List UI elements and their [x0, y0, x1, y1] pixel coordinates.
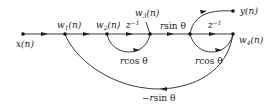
label-w2: w2(n) — [96, 20, 121, 31]
edge-w4-m-rcos — [190, 34, 233, 52]
node-w3 — [148, 32, 152, 36]
arrow-icon — [83, 32, 90, 36]
node-y — [231, 9, 235, 13]
arrow-icon — [167, 32, 174, 36]
label-rcos-2: rcos θ — [195, 56, 223, 66]
arrow-icon — [209, 32, 216, 36]
label-x: x(n) — [16, 39, 34, 49]
node-m — [188, 32, 192, 36]
signal-flow-graph: x(n) w1(n) w2(n) z−1 w3(n) rsin θ rcos θ… — [0, 0, 275, 105]
label-w3: w3(n) — [135, 8, 160, 19]
label-z-inv-1: z−1 — [125, 19, 140, 30]
arrow-icon — [126, 32, 133, 36]
arrow-icon — [41, 32, 48, 36]
arrow-icon — [133, 48, 140, 52]
label-z-inv-2: z−1 — [207, 19, 222, 30]
w3-leader-line — [146, 22, 150, 34]
label-w4: w4(n) — [239, 35, 264, 46]
node-x — [21, 32, 25, 36]
label-rsin: rsin θ — [160, 21, 186, 31]
node-w1 — [63, 32, 67, 36]
label-w1: w1(n) — [57, 20, 82, 31]
edge-w3-w2-rcos — [107, 34, 150, 52]
label-neg-rsin: −rsin θ — [142, 93, 175, 103]
label-rcos-1: rcos θ — [120, 56, 148, 66]
arrow-icon — [160, 87, 167, 91]
node-w4 — [231, 32, 235, 36]
node-w2 — [105, 32, 109, 36]
label-y: y(n) — [239, 6, 258, 16]
